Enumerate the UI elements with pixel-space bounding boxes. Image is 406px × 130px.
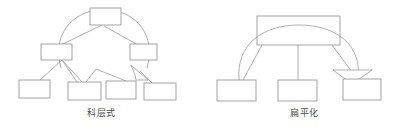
box-leaf-2-hierarchical: [68, 82, 101, 100]
connector-top-to-mid-right: [104, 26, 138, 45]
arrowhead-left-diagram: [131, 65, 148, 80]
caption-flat: 扁平化: [203, 106, 406, 119]
connector-mid-left-to-leaf-2b: [63, 61, 82, 82]
connector-mid-left-to-leaf-1: [40, 60, 62, 80]
figure-root: 科层式 扁平化: [0, 0, 406, 130]
connector-peak-to-leaf-3: [96, 69, 126, 81]
diagram-hierarchical: [19, 8, 176, 100]
box-mid-right-hierarchical: [130, 44, 157, 60]
box-leaf-2-flat: [278, 80, 317, 101]
box-leaf-1-flat: [217, 80, 256, 101]
box-mid-left-hierarchical: [41, 44, 72, 60]
caption-hierarchical: 科层式: [0, 106, 203, 119]
box-top-flat: [257, 16, 340, 45]
box-leaf-3-flat: [343, 79, 381, 100]
box-top-hierarchical: [90, 8, 121, 25]
connector-top-to-leaf-1-flat: [243, 45, 262, 80]
box-leaf-3-hierarchical: [106, 81, 136, 99]
connector-top-to-mid-left: [61, 25, 102, 45]
box-leaf-4-hierarchical: [144, 83, 176, 100]
connector-mid-left-to-leaf-2a: [62, 60, 77, 82]
box-leaf-1-hierarchical: [19, 80, 50, 98]
connector-peak-to-leaf-2: [86, 69, 96, 82]
diagram-flat: [217, 16, 381, 101]
